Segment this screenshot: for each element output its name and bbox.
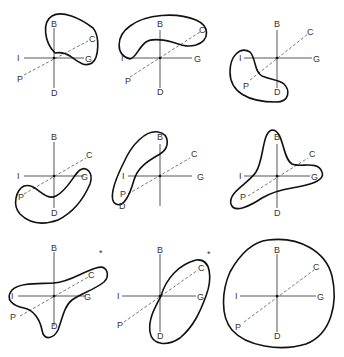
svg-text:P: P [10, 312, 16, 322]
svg-text:B: B [157, 132, 163, 142]
svg-text:C: C [86, 150, 93, 160]
svg-text:C: C [199, 25, 206, 35]
svg-text:P: P [18, 192, 24, 202]
svg-text:I: I [235, 291, 238, 301]
svg-text:D: D [157, 87, 164, 97]
panel-marker: * [207, 249, 211, 259]
panel-8: B D I G C P * [117, 245, 211, 343]
svg-text:I: I [17, 53, 20, 63]
panel-5: B D I G C P [112, 132, 204, 211]
svg-text:D: D [51, 88, 58, 98]
svg-text:B: B [274, 245, 280, 255]
svg-text:D: D [274, 208, 281, 218]
svg-text:P: P [125, 76, 131, 86]
diagram-grid: B D I G C P B D I G C P B D I G C P [0, 0, 344, 357]
svg-text:B: B [51, 243, 57, 253]
svg-text:I: I [11, 291, 14, 301]
svg-text:I: I [122, 171, 125, 181]
svg-text:I: I [239, 171, 242, 181]
svg-text:G: G [85, 54, 92, 64]
svg-text:D: D [51, 321, 58, 331]
panel-6: B D I G C P [231, 130, 323, 218]
svg-text:G: G [313, 54, 320, 64]
svg-text:P: P [240, 192, 246, 202]
svg-text:D: D [51, 208, 58, 218]
svg-text:G: G [311, 172, 318, 182]
svg-text:P: P [243, 81, 249, 91]
svg-text:I: I [17, 171, 20, 181]
svg-text:D: D [157, 331, 164, 341]
svg-text:P: P [120, 189, 126, 199]
svg-text:G: G [197, 292, 204, 302]
svg-text:P: P [17, 74, 23, 84]
svg-text:D: D [274, 331, 281, 341]
panel-1: B D I G C P [17, 14, 98, 98]
svg-text:B: B [51, 132, 57, 142]
panel-marker: * [99, 248, 103, 258]
svg-text:G: G [81, 172, 88, 182]
svg-text:B: B [157, 245, 163, 255]
svg-text:C: C [88, 270, 95, 280]
svg-text:G: G [197, 172, 204, 182]
panel-3: B D I G C P [230, 19, 320, 102]
svg-text:G: G [84, 292, 91, 302]
svg-text:B: B [157, 19, 163, 29]
svg-text:C: C [309, 149, 316, 159]
svg-text:C: C [313, 262, 320, 272]
panel-9: B D I G C P [224, 239, 335, 347]
svg-text:I: I [121, 53, 124, 63]
svg-text:P: P [117, 320, 123, 330]
svg-text:G: G [317, 292, 324, 302]
svg-text:B: B [274, 132, 280, 142]
svg-text:D: D [119, 201, 126, 211]
panel-7: B D I G C P * [9, 243, 107, 338]
svg-text:C: C [198, 263, 205, 273]
svg-text:B: B [274, 19, 280, 29]
panel-2: B D I G C P [119, 15, 206, 97]
svg-text:I: I [117, 291, 120, 301]
svg-text:I: I [239, 53, 242, 63]
svg-text:D: D [274, 87, 281, 97]
svg-text:G: G [194, 54, 201, 64]
panel-4: B D I G C P [16, 132, 93, 223]
svg-text:C: C [191, 149, 198, 159]
svg-text:C: C [307, 27, 314, 37]
svg-text:B: B [51, 19, 57, 29]
svg-text:C: C [89, 34, 96, 44]
svg-text:P: P [235, 322, 241, 332]
